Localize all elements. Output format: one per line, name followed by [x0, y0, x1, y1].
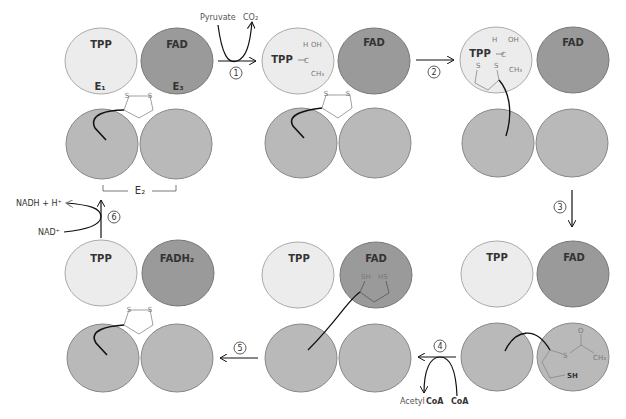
hydrogen: H	[303, 41, 308, 49]
e3-enzyme	[142, 240, 214, 306]
panel-5: TPP FAD SH HS	[262, 242, 412, 392]
e1-label: TPP	[90, 253, 111, 264]
e1-label: TPP	[90, 39, 111, 50]
e1-enzyme	[262, 242, 334, 308]
acetyl-coa-label: CoA	[426, 397, 444, 406]
step-4-number: 4	[437, 342, 442, 351]
e2-label: E₂	[135, 185, 145, 196]
curved-arrow-acetyl-coa	[424, 357, 457, 396]
e2-enzyme-right	[339, 108, 411, 178]
e3-subunit-label: E₃	[172, 81, 183, 92]
e1-subunit-label: E₁	[94, 81, 105, 92]
e3-label: FAD	[166, 39, 188, 50]
hydrogen: H	[492, 36, 497, 44]
e2-enzyme-right	[140, 109, 212, 179]
e1-label: TPP	[469, 48, 490, 59]
thiol-1: SH	[361, 273, 371, 281]
e3-label: FAD	[562, 37, 584, 48]
methyl: CH₃	[509, 66, 522, 74]
e3-label: FAD	[365, 253, 387, 264]
step-5: 5	[220, 342, 258, 358]
e3-label: FADH₂	[160, 253, 194, 264]
e2-enzyme-left	[265, 108, 337, 178]
e1-label: TPP	[486, 252, 507, 263]
e1-enzyme	[65, 240, 137, 306]
acetyl-label: Acetyl	[400, 397, 425, 406]
step-6-number: 6	[111, 213, 116, 222]
methyl: CH₃	[311, 70, 324, 78]
e3-label: FAD	[563, 252, 585, 263]
curved-arrow-co2	[218, 22, 252, 62]
step-1-number: 1	[233, 69, 238, 78]
e2-enzyme-right	[141, 324, 213, 392]
step-3-number: 3	[557, 203, 562, 212]
step-5-number: 5	[237, 344, 242, 353]
panel-4: TPP FAD S O CH₃ SH	[461, 241, 609, 391]
step-3: 3	[554, 190, 572, 227]
e2-enzyme-right	[339, 324, 411, 392]
e2-enzyme-right	[536, 109, 608, 177]
nadh-label: NADH + H⁺	[16, 199, 62, 208]
e1-enzyme	[461, 241, 533, 307]
carbon: C	[304, 57, 309, 65]
step-2: 2	[416, 60, 454, 78]
curved-arrow-nadh	[64, 203, 101, 232]
e3-enzyme	[340, 242, 412, 308]
sulfur-1: S	[476, 62, 481, 70]
e3-label: FAD	[363, 37, 385, 48]
carbonyl-oxygen: O	[578, 327, 584, 335]
pyruvate-label: Pyruvate	[200, 13, 236, 22]
co2-label: CO₂	[243, 13, 258, 22]
hydroxyl: OH	[508, 36, 519, 44]
thiol: SH	[567, 372, 578, 380]
panel-6: TPP FADH₂ S S	[65, 240, 214, 392]
panel-3: TPP H OH C CH₃ S S FAD	[460, 27, 609, 177]
e1-label: TPP	[271, 54, 292, 65]
e2-enzyme-left	[265, 324, 337, 392]
e2-enzyme-left	[66, 109, 138, 179]
sulfur-2: S	[148, 92, 153, 100]
thioester-sulfur: S	[563, 352, 568, 360]
sulfur-2: S	[494, 62, 499, 70]
sulfur-2: S	[346, 90, 351, 98]
hydroxyl: OH	[311, 41, 322, 49]
sulfur-2: S	[148, 306, 153, 314]
sulfur-1: S	[125, 92, 130, 100]
e3-enzyme	[537, 241, 609, 307]
e1-label: TPP	[288, 253, 309, 264]
pdh-cycle-diagram: TPP FAD E₁ E₃ S S E₂ Pyruvate CO₂ 1 TPP …	[0, 0, 626, 419]
lipoamide-ring	[322, 95, 352, 118]
nad-label: NAD⁺	[38, 228, 60, 237]
carbon: C	[501, 51, 506, 59]
e2-enzyme-left	[67, 324, 139, 392]
e2-enzyme-left	[462, 109, 534, 177]
methyl: CH₃	[593, 354, 606, 362]
sulfur-1: S	[324, 90, 329, 98]
sulfur-1: S	[127, 306, 132, 314]
step-2-number: 2	[431, 68, 436, 77]
step-6: NADH + H⁺ NAD⁺ 6	[16, 199, 120, 238]
thiol-2: HS	[378, 273, 388, 281]
panel-1: TPP FAD E₁ E₃ S S E₂	[65, 28, 213, 196]
coa-label: CoA	[451, 397, 469, 406]
panel-2: TPP H OH C CH₃ FAD S S	[262, 28, 411, 178]
